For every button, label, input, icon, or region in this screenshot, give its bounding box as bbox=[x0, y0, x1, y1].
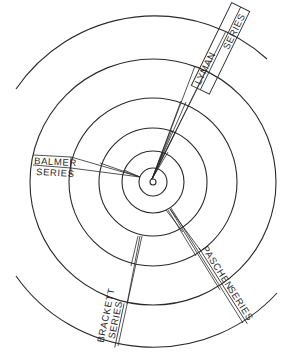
paschen-label-line1: PASCHEN bbox=[200, 244, 236, 292]
paschen-series-lines bbox=[166, 208, 243, 323]
lyman-label: LYMAN SERIES bbox=[190, 2, 249, 94]
brackett-label: BRACKETT SERIES bbox=[94, 287, 126, 348]
orbit-ring-6 bbox=[30, 59, 276, 305]
orbit-ring-5 bbox=[69, 98, 237, 266]
energy-level-diagram: LYMAN SERIES BALMER SERIES PASCHEN SERIE… bbox=[0, 0, 296, 362]
balmer-series-lines bbox=[71, 157, 140, 177]
orbit-ring-4 bbox=[99, 128, 207, 236]
balmer-label-line2: SERIES bbox=[36, 166, 75, 179]
orbit-ring-3 bbox=[122, 151, 184, 213]
orbit-ring-2 bbox=[139, 168, 167, 196]
orbit-ring-1 bbox=[150, 179, 156, 185]
paschen-label: PASCHEN SERIES bbox=[199, 242, 257, 324]
brackett-series-lines bbox=[118, 236, 142, 346]
balmer-label: BALMER SERIES bbox=[33, 155, 77, 179]
lyman-series-lines bbox=[152, 31, 226, 179]
